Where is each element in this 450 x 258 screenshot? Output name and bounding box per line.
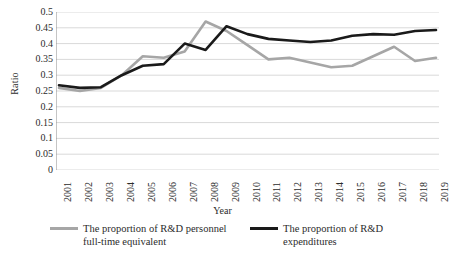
x-axis-tick: 2001 — [63, 182, 73, 202]
legend-label: The proportion of R&Dexpenditures — [283, 222, 383, 248]
x-axis-tick: 2010 — [252, 182, 262, 202]
x-axis-tick: 2019 — [440, 182, 450, 202]
gridlines — [56, 12, 439, 170]
y-axis-tick-labels: 00.050.10.150.20.250.30.350.40.450.5 — [20, 12, 53, 170]
y-axis-tick: 0.35 — [20, 54, 53, 64]
x-axis-tick: 2004 — [126, 182, 136, 202]
x-axis-tick: 2011 — [272, 182, 282, 202]
x-axis-tick: 2003 — [105, 182, 115, 202]
x-axis-tick: 2016 — [377, 182, 387, 202]
y-axis-tick: 0 — [20, 165, 53, 175]
chart-legend: The proportion of R&D personnelfull-time… — [0, 222, 445, 258]
x-axis-tick: 2012 — [293, 182, 303, 202]
x-axis-tick: 2013 — [314, 182, 324, 202]
y-axis-tick: 0.5 — [20, 7, 53, 17]
x-axis-tick: 2018 — [419, 182, 429, 202]
y-axis-title: Ratio — [9, 54, 20, 114]
y-axis-tick: 0.4 — [20, 39, 53, 49]
y-axis-tick: 0.05 — [20, 149, 53, 159]
plot-svg — [56, 12, 439, 170]
x-axis-tick: 2007 — [189, 182, 199, 202]
y-axis-tick: 0.2 — [20, 102, 53, 112]
plot-area — [56, 12, 439, 170]
x-axis-tick: 2009 — [231, 182, 241, 202]
y-axis-tick: 0.3 — [20, 70, 53, 80]
x-axis-tick: 2015 — [356, 182, 366, 202]
x-axis-tick: 2017 — [398, 182, 408, 202]
legend-label: The proportion of R&D personnelfull-time… — [83, 222, 226, 248]
x-axis-tick: 2006 — [168, 182, 178, 202]
legend-item[interactable]: The proportion of R&Dexpenditures — [250, 222, 383, 248]
data-series-lines — [59, 21, 436, 91]
x-axis-tick: 2008 — [210, 182, 220, 202]
series-line-1 — [59, 26, 436, 88]
legend-swatch-icon — [250, 227, 278, 230]
x-axis-tick-labels: 2001200220032004200520062007200820092010… — [56, 172, 439, 204]
x-axis-title: Year — [0, 205, 445, 216]
legend-item[interactable]: The proportion of R&D personnelfull-time… — [50, 222, 226, 248]
y-axis-tick: 0.1 — [20, 133, 53, 143]
y-axis-tick: 0.15 — [20, 118, 53, 128]
x-axis-tick: 2002 — [84, 182, 94, 202]
y-axis-tick: 0.25 — [20, 86, 53, 96]
y-axis-tick: 0.45 — [20, 23, 53, 33]
x-axis-tick: 2014 — [335, 182, 345, 202]
series-line-0 — [59, 21, 436, 91]
x-axis-tick: 2005 — [147, 182, 157, 202]
legend-swatch-icon — [50, 227, 78, 230]
